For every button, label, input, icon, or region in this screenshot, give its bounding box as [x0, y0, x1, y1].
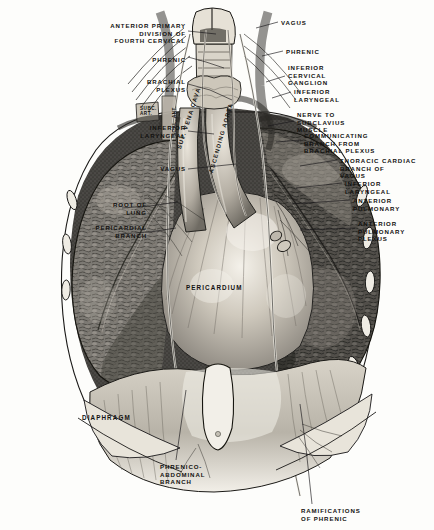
anatomy-illustration	[0, 0, 434, 530]
label-anterior-pulmonary: ANTERIOR PULMONARY	[353, 197, 400, 212]
label-ramifications-of-phrenic: RAMIFICATIONS OF PHRENIC	[301, 507, 361, 522]
label-brachial-plexus: BRACHIAL PLEXUS	[86, 78, 186, 93]
label-inferior-laryngeal-right: INFERIOR LARYNGEAL	[294, 88, 340, 103]
label-anterior-pulmonary-plexus: ANTERIOR PULMONARY PLEXUS	[358, 220, 405, 243]
label-vagus-right: VAGUS	[281, 19, 307, 27]
label-subclavian-artery-abbrev: SUBC. ART.	[140, 106, 157, 116]
label-phrenic-left: PHRENIC	[96, 56, 186, 64]
label-root-of-lung: ROOT OF LUNG	[42, 201, 147, 216]
label-communicating-branch-from-brachial-plexus: COMMUNICATING BRANCH FROM BRACHIAL PLEXU…	[304, 132, 375, 155]
label-diaphragm: DIAPHRAGM	[82, 414, 131, 421]
label-inferior-laryngeal-left: INFERIOR LARYNGEAL	[72, 124, 186, 139]
label-nerve-to-subclavius-muscle: NERVE TO SUBCLAVIUS MUSCLE	[297, 111, 345, 134]
label-vagus-left: VAGUS	[76, 165, 186, 173]
label-anterior-primary-division-fourth-cervical: ANTERIOR PRIMARY DIVISION OF FOURTH CERV…	[64, 22, 186, 45]
label-inferior-cervical-ganglion: INFERIOR CERVICAL GANGLION	[288, 64, 328, 87]
anatomical-plate: ANTERIOR PRIMARY DIVISION OF FOURTH CERV…	[0, 0, 434, 530]
label-pericardial-branch: PERICARDIAL BRANCH	[22, 224, 147, 239]
label-scalenus-anterior-abbrev: SCAL. ANT.	[172, 106, 177, 136]
label-phrenic-right: PHRENIC	[286, 48, 320, 56]
label-pericardium: PERICARDIUM	[186, 284, 243, 291]
label-phrenico-abdominal-branch: PHRENICO- ABDOMINAL BRANCH	[160, 463, 205, 486]
label-inferior-laryngeal-right-2: INFERIOR LARYNGEAL	[345, 180, 391, 195]
label-thoracic-cardiac-branch-of-vagus: THORACIC CARDIAC BRANCH OF VAGUS	[340, 157, 416, 180]
